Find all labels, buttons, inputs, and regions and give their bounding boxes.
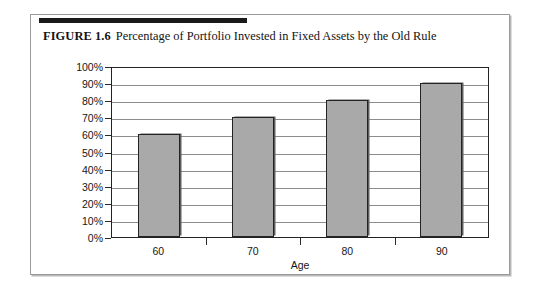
- figure-caption-text: Percentage of Portfolio Invested in Fixe…: [116, 29, 437, 43]
- y-axis-tick-label: 70%: [49, 113, 103, 123]
- y-axis-tick-label: 40%: [49, 165, 103, 175]
- y-axis-tick-label: 50%: [49, 148, 103, 158]
- bar: [420, 83, 462, 237]
- y-axis-tick-label: 0%: [49, 233, 103, 243]
- plot-area: [111, 67, 489, 238]
- bar: [232, 117, 274, 237]
- y-axis-tick-label: 10%: [49, 216, 103, 226]
- bar-series: [112, 68, 488, 237]
- y-axis-tick-label: 60%: [49, 130, 103, 140]
- x-axis-title: Age: [111, 259, 489, 271]
- bar: [326, 100, 368, 237]
- bar-slot: [206, 68, 300, 237]
- x-axis-tick-label: 80: [300, 244, 395, 260]
- bar: [138, 134, 180, 237]
- bar-slot: [394, 68, 488, 237]
- figure-top-rule: [39, 18, 247, 23]
- y-axis-tick-labels: 100%90%80%70%60%50%40%30%20%10%0%: [49, 67, 103, 238]
- y-axis-tick-label: 20%: [49, 199, 103, 209]
- y-axis-tick-label: 80%: [49, 96, 103, 106]
- bar-chart: 100%90%80%70%60%50%40%30%20%10%0% 607080…: [31, 45, 511, 273]
- x-axis-tick-label: 70: [206, 244, 301, 260]
- y-axis-tick-label: 90%: [49, 79, 103, 89]
- bar-slot: [300, 68, 394, 237]
- y-axis-tick-label: 100%: [49, 62, 103, 72]
- figure-label: FIGURE 1.6: [43, 29, 111, 43]
- x-axis-tick-label: 60: [111, 244, 206, 260]
- x-axis-tick-labels: 60708090: [111, 244, 489, 260]
- bar-slot: [112, 68, 206, 237]
- y-axis-tick-label: 30%: [49, 182, 103, 192]
- figure-caption: FIGURE 1.6Percentage of Portfolio Invest…: [43, 27, 503, 45]
- figure-frame: FIGURE 1.6Percentage of Portfolio Invest…: [30, 14, 510, 275]
- x-axis-tick-label: 90: [395, 244, 490, 260]
